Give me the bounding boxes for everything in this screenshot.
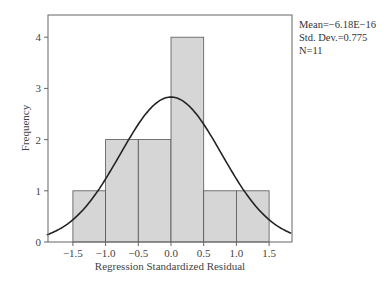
x-axis-ticks: −1.5−1.0−0.50.00.51.01.5 (63, 242, 277, 259)
y-tick-label: 2 (36, 134, 42, 146)
histogram-bar (236, 191, 269, 242)
stats-box: Mean=−6.18E−16 Std. Dev.=0.775 N=11 (299, 18, 376, 57)
y-tick-label: 1 (36, 185, 42, 197)
y-axis-label: Frequency (19, 104, 31, 151)
x-tick-label: 0.0 (164, 247, 178, 259)
y-tick-label: 3 (36, 82, 42, 94)
y-tick-label: 4 (36, 31, 42, 43)
histogram-bar (171, 37, 204, 242)
x-tick-label: −0.5 (128, 247, 148, 259)
stat-std-dev: Std. Dev.=0.775 (299, 31, 376, 44)
y-tick-label: 0 (36, 236, 42, 248)
stat-mean: Mean=−6.18E−16 (299, 18, 376, 31)
x-tick-label: −1.0 (96, 247, 116, 259)
histogram-bar (138, 140, 171, 242)
histogram-bar (106, 140, 139, 242)
histogram-bars (73, 37, 269, 242)
x-axis-label: Regression Standardized Residual (95, 260, 245, 272)
x-tick-label: 1.5 (262, 247, 276, 259)
histogram-bar (73, 191, 106, 242)
y-axis-ticks: 01234 (36, 31, 49, 248)
histogram-bar (204, 191, 237, 242)
x-tick-label: −1.5 (63, 247, 83, 259)
stat-n: N=11 (299, 44, 376, 57)
x-tick-label: 0.5 (197, 247, 211, 259)
x-tick-label: 1.0 (230, 247, 244, 259)
